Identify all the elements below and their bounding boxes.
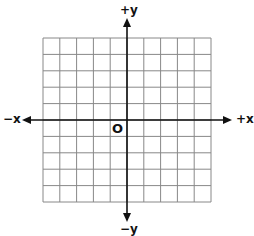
origin-label: O: [112, 122, 123, 135]
neg-y-label: −y: [120, 223, 138, 235]
x-axis-right-arrow-icon: [223, 116, 232, 124]
x-axis-left-arrow-icon: [22, 116, 31, 124]
y-axis-down-arrow-icon: [123, 213, 131, 222]
pos-y-label: +y: [120, 4, 138, 16]
coordinate-plane: [0, 0, 254, 236]
y-axis-up-arrow-icon: [123, 18, 131, 27]
neg-x-label: −x: [3, 113, 21, 125]
pos-x-label: +x: [236, 113, 254, 125]
